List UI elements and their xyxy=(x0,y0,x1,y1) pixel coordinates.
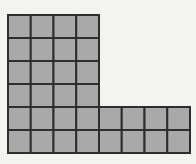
grid-cell xyxy=(76,38,99,61)
l-shape-grid xyxy=(0,0,196,164)
grid-cell xyxy=(76,61,99,84)
grid-cell xyxy=(31,61,54,84)
grid-cell xyxy=(31,107,54,130)
grid-cell xyxy=(167,130,190,153)
grid-cell xyxy=(76,130,99,153)
grid-cell xyxy=(76,107,99,130)
grid-cell xyxy=(54,61,77,84)
grid-cell xyxy=(122,130,145,153)
grid-cell xyxy=(31,38,54,61)
grid-cell xyxy=(31,15,54,38)
grid-cell xyxy=(8,84,31,107)
grid-cell xyxy=(8,61,31,84)
grid-cell xyxy=(54,15,77,38)
grid-cell xyxy=(99,130,122,153)
grid-cell xyxy=(54,107,77,130)
grid-cell xyxy=(31,84,54,107)
grid-cell xyxy=(122,107,145,130)
grid-cell xyxy=(54,130,77,153)
grid-cell xyxy=(76,15,99,38)
grid-cell xyxy=(8,130,31,153)
diagram-canvas xyxy=(0,0,196,164)
grid-cell xyxy=(8,15,31,38)
grid-cell xyxy=(54,38,77,61)
grid-cell xyxy=(145,107,168,130)
grid-cell xyxy=(54,84,77,107)
grid-cell xyxy=(76,84,99,107)
grid-cell xyxy=(145,130,168,153)
grid-cell xyxy=(8,38,31,61)
grid-cell xyxy=(167,107,190,130)
grid-cell xyxy=(31,130,54,153)
grid-cell xyxy=(99,107,122,130)
grid-cell xyxy=(8,107,31,130)
